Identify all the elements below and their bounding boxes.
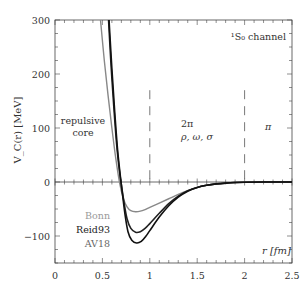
y-axis-label: V_C(r) [MeV] [12,96,24,164]
y-tick-label: −100 [24,231,50,242]
tick-labels: 00.511.522.5−1000100200300 [24,15,300,282]
legend-reid93: Reid93 [76,224,110,235]
annotation-heavy-mesons: ρ, ω, σ [180,131,213,142]
x-tick-label: 0.5 [95,270,110,281]
x-axis-label: r [fm] [262,245,291,256]
annotation-pion: π [264,121,272,132]
x-tick-label: 1.5 [190,270,205,281]
annotation-two-pion: 2π [181,118,193,129]
annotation-repulsive: repulsive [61,115,106,126]
potential-chart: 00.511.522.5−1000100200300 V_C(r) [MeV] … [0,0,308,290]
y-tick-label: 200 [32,69,50,80]
x-tick-label: 0 [52,270,58,281]
y-tick-label: 100 [32,123,50,134]
legend-bonn: Bonn [85,210,110,221]
x-tick-label: 1 [147,270,153,281]
channel-label: ¹S₀ channel [231,31,286,42]
x-tick-label: 2 [242,270,248,281]
legend-av18: AV18 [84,238,110,249]
y-tick-label: 300 [32,15,50,26]
annotation-core: core [72,127,94,138]
y-tick-label: 0 [44,177,50,188]
x-tick-label: 2.5 [284,270,299,281]
